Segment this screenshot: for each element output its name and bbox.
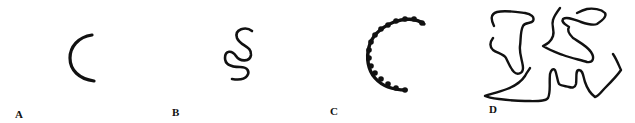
beads — [366, 16, 425, 93]
beaded-arc-illustration — [320, 0, 480, 123]
random-coil-illustration — [475, 0, 635, 123]
panel-label-c: C — [330, 106, 338, 117]
panel-label-d: D — [489, 104, 497, 115]
panel-label-b: B — [172, 107, 179, 118]
panel-label-a: A — [15, 109, 23, 120]
rigid-arc-illustration — [0, 0, 160, 123]
panel-b: B — [160, 0, 320, 123]
panel-d: D — [475, 0, 635, 123]
panel-c: C — [320, 0, 480, 123]
s-coil-illustration — [160, 0, 320, 123]
panel-a: A — [0, 0, 160, 123]
